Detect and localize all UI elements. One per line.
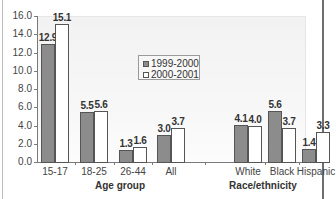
y-tick [34, 162, 37, 163]
x-tick [152, 162, 153, 165]
x-tick [75, 162, 76, 165]
x-tick [299, 162, 300, 165]
group-title-age: Age group [75, 181, 165, 191]
y-tick [34, 144, 37, 145]
category-label-all: All [151, 167, 191, 177]
legend-item-1999-2000: 1999-2000 [143, 59, 199, 69]
y-tick-label: 6.0 [0, 102, 32, 112]
y-tick-label: 12.0 [0, 48, 32, 58]
category-label-hispanic: Hispanic [296, 167, 336, 177]
bar-white-1999-2000 [234, 125, 248, 163]
y-tick-label: 10.0 [0, 66, 32, 76]
bar-18-25-2000-2001 [94, 111, 108, 163]
bar-15-17-2000-2001 [55, 24, 69, 163]
legend-swatch-white-icon [143, 72, 149, 78]
y-tick [34, 16, 37, 17]
bar-all-2000-2001 [171, 128, 185, 163]
bar-value-label: 3.7 [277, 117, 301, 127]
bar-18-25-1999-2000 [80, 112, 94, 163]
category-label-15-17: 15-17 [35, 167, 75, 177]
bar-hispanic-2000-2001 [316, 132, 330, 163]
y-tick-label: 2.0 [0, 139, 32, 149]
y-tick-label: 4.0 [0, 121, 32, 131]
y-tick-label: 16.0 [0, 11, 32, 21]
bar-all-1999-2000 [157, 135, 171, 163]
legend-label: 1999-2000 [151, 58, 199, 69]
y-tick-label: 14.0 [0, 29, 32, 39]
x-tick [114, 162, 115, 165]
bar-26-44-2000-2001 [133, 147, 147, 163]
x-tick [265, 162, 266, 165]
legend-label: 2000-2001 [151, 69, 199, 80]
bar-value-label: 4.0 [243, 115, 267, 125]
bar-value-label: 15.1 [50, 13, 74, 23]
legend-swatch-gray-icon [143, 61, 149, 67]
category-label-26-44: 26-44 [113, 167, 153, 177]
y-tick [34, 89, 37, 90]
bar-value-label: 1.6 [128, 136, 152, 146]
bar-value-label: 3.3 [311, 121, 335, 131]
y-tick-label: 8.0 [0, 84, 32, 94]
y-tick-label: 0.0 [0, 157, 32, 167]
bar-value-label: 3.7 [166, 117, 190, 127]
group-title-race: Race/ethnicity [218, 181, 308, 191]
x-tick [205, 162, 206, 165]
y-tick [34, 71, 37, 72]
legend-item-2000-2001: 2000-2001 [143, 70, 199, 80]
bar-15-17-1999-2000 [41, 44, 55, 163]
y-tick [34, 126, 37, 127]
bar-value-label: 5.6 [263, 100, 287, 110]
y-tick [34, 107, 37, 108]
bar-white-2000-2001 [248, 126, 262, 164]
y-tick [34, 53, 37, 54]
bar-hispanic-1999-2000 [302, 149, 316, 163]
bar-value-label: 5.6 [89, 100, 113, 110]
bar-26-44-1999-2000 [119, 150, 133, 163]
legend: 1999-2000 2000-2001 [138, 55, 200, 80]
category-label-18-25: 18-25 [74, 167, 114, 177]
bar-black-2000-2001 [282, 128, 296, 163]
